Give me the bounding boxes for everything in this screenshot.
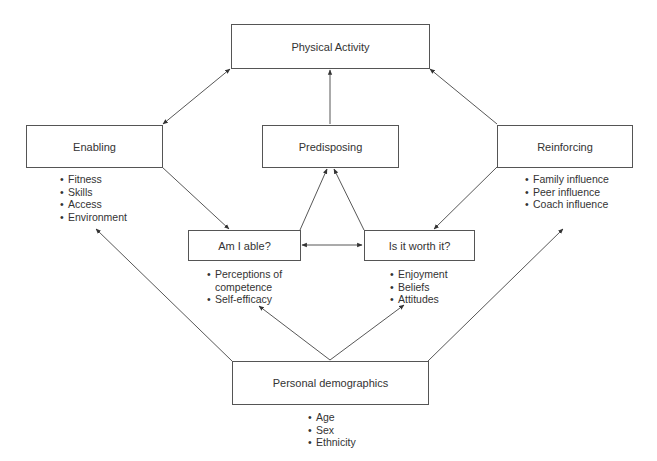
list-item: Coach influence [525, 198, 609, 211]
node-predisposing: Predisposing [262, 125, 399, 168]
node-label: Enabling [73, 141, 116, 153]
edge-is-it-worth-it-predisposing [334, 169, 364, 230]
node-label: Predisposing [299, 141, 363, 153]
node-am-i-able: Am I able? [188, 230, 301, 261]
node-physical-activity: Physical Activity [231, 24, 430, 69]
list-item: Age [308, 411, 356, 424]
list-item-continuation: competence [207, 281, 282, 294]
node-reinforcing: Reinforcing [497, 125, 633, 168]
am-i-able-factors-list: Perceptions of competence Self-efficacy [207, 268, 282, 306]
list-item: Family influence [525, 173, 609, 186]
enabling-factors-list: Fitness Skills Access Environment [60, 173, 127, 223]
edge-physical-activity-enabling [163, 69, 230, 124]
node-label: Is it worth it? [389, 240, 451, 252]
edge-reinforcing-physical-activity [430, 69, 497, 124]
is-it-worth-it-factors-list: Enjoyment Beliefs Attitudes [390, 268, 448, 306]
node-label: Am I able? [218, 240, 271, 252]
node-label: Physical Activity [291, 41, 369, 53]
node-label: Personal demographics [273, 377, 389, 389]
list-item: Beliefs [390, 281, 448, 294]
list-item: Sex [308, 424, 356, 437]
list-item: Environment [60, 211, 127, 224]
edge-reinforcing-is-it-worth-it [434, 167, 497, 229]
list-item: Perceptions of [207, 268, 282, 281]
node-label: Reinforcing [537, 141, 593, 153]
reinforcing-factors-list: Family influence Peer influence Coach in… [525, 173, 609, 211]
demographics-factors-list: Age Sex Ethnicity [308, 411, 356, 449]
edge-enabling-am-i-able [162, 167, 229, 229]
edge-am-i-able-predisposing [300, 169, 327, 230]
list-item: Self-efficacy [207, 293, 282, 306]
list-item: Peer influence [525, 186, 609, 199]
list-item: Skills [60, 186, 127, 199]
node-personal-demographics: Personal demographics [232, 361, 429, 405]
list-item: Enjoyment [390, 268, 448, 281]
edge-demographics-is-it-worth-it [330, 305, 404, 360]
list-item: Access [60, 198, 127, 211]
node-enabling: Enabling [26, 125, 163, 168]
edge-demographics-am-i-able [259, 306, 330, 360]
node-is-it-worth-it: Is it worth it? [364, 230, 475, 261]
list-item: Fitness [60, 173, 127, 186]
list-item: Attitudes [390, 293, 448, 306]
list-item: Ethnicity [308, 436, 356, 449]
